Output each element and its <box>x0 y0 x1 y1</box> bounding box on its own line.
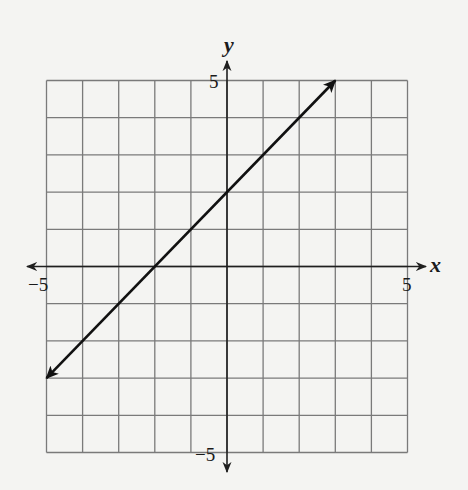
x-axis-label: x <box>429 252 441 277</box>
y-min-tick-label: −5 <box>195 444 215 465</box>
y-axis-label: y <box>221 32 234 57</box>
axes <box>27 61 426 472</box>
axis-labels: y x 5 −5 −5 5 <box>28 32 441 465</box>
x-max-tick-label: 5 <box>402 274 412 295</box>
coordinate-plane: y x 5 −5 −5 5 <box>0 0 468 490</box>
y-max-tick-label: 5 <box>209 71 219 92</box>
x-min-tick-label: −5 <box>28 274 48 295</box>
